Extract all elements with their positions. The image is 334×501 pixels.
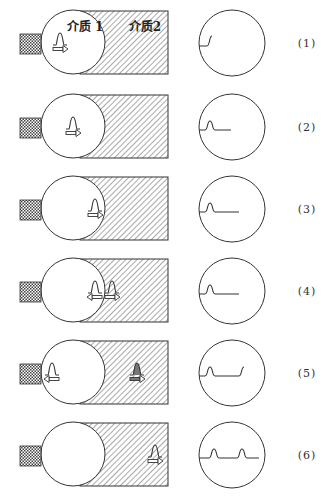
row-label-4: (4): [298, 285, 317, 298]
transducer-block: [20, 34, 41, 54]
oscilloscope-screen: [199, 258, 265, 324]
diagram-row-6: [20, 422, 265, 488]
oscilloscope-screen: [199, 176, 265, 242]
row-label-6: (6): [298, 449, 317, 462]
diagram-canvas: [0, 0, 334, 501]
diagram-row-4: [20, 258, 265, 324]
diagram-row-3: [20, 176, 265, 242]
medium1-label: 介质 1: [67, 17, 104, 34]
transducer-block: [20, 364, 41, 384]
diagram-row-2: [20, 94, 265, 160]
row-label-2: (2): [298, 121, 317, 134]
row-label-5: (5): [298, 367, 317, 380]
medium1-circle: [41, 340, 105, 404]
medium2-label: 介质2: [129, 17, 161, 34]
row-label-3: (3): [298, 203, 317, 216]
oscilloscope-screen: [199, 94, 265, 160]
transducer-block: [20, 118, 41, 138]
transducer-block: [20, 200, 41, 220]
medium1-circle: [41, 422, 105, 486]
medium1-circle: [41, 176, 105, 240]
oscilloscope-screen: [199, 10, 265, 76]
medium1-circle: [41, 94, 105, 158]
row-label-1: (1): [298, 37, 317, 50]
diagram-row-5: [20, 340, 265, 406]
reflection-diagram: (1)(2)(3)(4)(5)(6)介质 1介质2: [0, 0, 334, 501]
medium1-circle: [41, 258, 105, 322]
transducer-block: [20, 282, 41, 302]
oscilloscope-screen: [199, 422, 265, 488]
oscilloscope-screen: [199, 340, 265, 406]
transducer-block: [20, 446, 41, 466]
